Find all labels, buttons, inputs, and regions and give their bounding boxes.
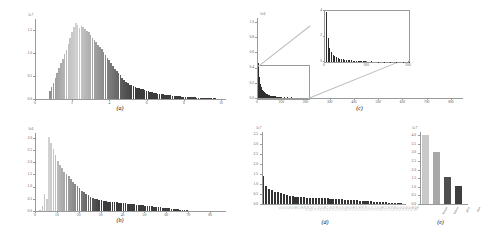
y-tick-label: 3.0 <box>403 150 416 154</box>
y-tick-label: 1.0 <box>241 20 254 24</box>
y-tick-label: 4 <box>312 8 322 12</box>
y-tick <box>33 150 35 151</box>
panel-e-plot-area <box>420 132 464 204</box>
panel-e-y-offset: 1e7 <box>412 126 417 130</box>
y-tick <box>260 134 262 135</box>
panel-c-inset-plot-area <box>325 11 409 62</box>
y-tick-label: 4.0 <box>403 133 416 137</box>
y-tick-label: 0.5 <box>245 192 258 196</box>
y-tick <box>418 135 420 136</box>
y-tick <box>255 37 257 38</box>
y-tick-label: 3.0 <box>245 142 258 146</box>
y-tick-label: 0.5 <box>19 74 32 78</box>
x-tick <box>451 98 452 100</box>
y-tick-label: 1.5 <box>403 176 416 180</box>
panel-a-caption: (a) <box>0 105 240 111</box>
x-tick <box>79 211 80 213</box>
y-tick-label: 0.5 <box>403 193 416 197</box>
x-tick <box>354 98 355 100</box>
bar <box>286 195 288 204</box>
y-tick-label: 0.0 <box>19 97 32 101</box>
x-tick-label: 300 <box>323 100 337 104</box>
y-tick-label: 0.0 <box>241 96 254 100</box>
y-tick <box>260 204 262 205</box>
bar <box>455 186 463 204</box>
y-tick <box>260 184 262 185</box>
y-tick <box>418 178 420 179</box>
y-tick-label: 2.0 <box>403 168 416 172</box>
x-tick <box>330 98 331 100</box>
panel-c: 1e6 0.00.20.40.60.81.0 01002003004005006… <box>240 0 479 118</box>
y-tick-label: 0.5 <box>19 197 32 201</box>
y-tick-label: 1.0 <box>19 51 32 55</box>
y-tick-label: 2.0 <box>19 160 32 164</box>
x-tick-label: 400 <box>347 100 361 104</box>
y-tick <box>33 174 35 175</box>
panel-b-caption: (b) <box>0 217 240 223</box>
y-tick <box>33 199 35 200</box>
x-tick-label: 0 <box>317 63 331 67</box>
y-tick <box>33 30 35 31</box>
x-tick <box>123 211 124 213</box>
bar <box>268 189 270 204</box>
x-tick <box>166 211 167 213</box>
x-tick <box>427 98 428 100</box>
bar <box>422 135 430 204</box>
y-tick <box>418 187 420 188</box>
y-tick <box>418 195 420 196</box>
y-tick-label: 1.5 <box>19 172 32 176</box>
bar <box>283 194 285 204</box>
panel-b: 1e6 0.00.51.01.52.02.53.0 01020304050607… <box>0 118 240 240</box>
panel-e-bars <box>420 132 464 204</box>
y-tick <box>33 187 35 188</box>
bar <box>262 176 264 204</box>
y-tick-label: 0.0 <box>245 202 258 206</box>
x-tick-label: 100 <box>359 63 373 67</box>
y-tick-label: 1.0 <box>403 185 416 189</box>
panel-c-inset <box>324 10 410 63</box>
x-tick <box>72 99 73 101</box>
x-tick <box>324 61 325 62</box>
x-tick-label: 0 <box>250 100 264 104</box>
y-tick <box>418 161 420 162</box>
y-tick <box>323 10 324 11</box>
bar <box>277 192 279 204</box>
panel-c-caption: (c) <box>240 105 479 111</box>
y-tick-label: 0.2 <box>241 81 254 85</box>
y-tick-label: 2.0 <box>245 162 258 166</box>
bar <box>265 186 267 204</box>
x-tick <box>35 99 36 101</box>
y-tick-label: 2.5 <box>403 159 416 163</box>
bar <box>294 197 296 204</box>
y-tick-label: 1.0 <box>245 182 258 186</box>
y-tick-label: 0.0 <box>19 209 32 213</box>
panel-a-y-offset: 1e7 <box>28 13 33 17</box>
y-tick-label: 1.0 <box>19 184 32 188</box>
x-tick <box>221 99 222 101</box>
y-tick <box>255 22 257 23</box>
panel-e-x-axis <box>420 204 468 205</box>
x-tick <box>147 99 148 101</box>
bar <box>433 152 441 204</box>
panel-b-x-axis <box>35 211 226 212</box>
y-tick <box>260 164 262 165</box>
y-tick <box>33 162 35 163</box>
panel-b-plot-area <box>35 133 221 211</box>
x-tick <box>378 98 379 100</box>
y-tick-label: 0 <box>312 59 322 63</box>
panel-d: 1e7 0.00.51.01.52.02.53.03.5 C1C2C3C4C5C… <box>240 118 410 240</box>
panel-c-inset-bars <box>325 11 409 62</box>
y-tick-label: 2.5 <box>245 152 258 156</box>
x-tick-label: 800 <box>444 100 458 104</box>
y-tick <box>418 153 420 154</box>
panel-c-zoom-source-rect <box>257 65 310 100</box>
panel-a-y-axis <box>35 19 36 99</box>
panel-b-bars <box>35 133 221 211</box>
y-tick <box>255 52 257 53</box>
y-tick-label: 2.5 <box>19 148 32 152</box>
panel-b-y-axis <box>35 133 36 211</box>
panel-b-y-offset: 1e6 <box>28 127 33 131</box>
panel-d-y-axis <box>262 132 263 204</box>
x-tick <box>408 61 409 62</box>
panel-d-plot-area <box>262 132 402 204</box>
